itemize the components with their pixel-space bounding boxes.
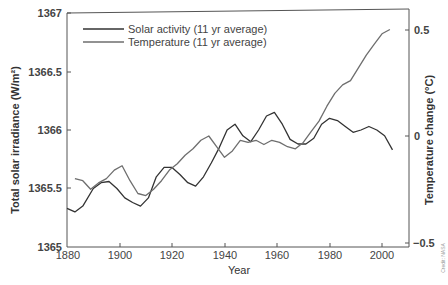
- x-tick-label: 1980: [318, 249, 342, 261]
- x-tick-label: 2000: [370, 249, 394, 261]
- x-tick-label: 1940: [213, 249, 237, 261]
- y-left-tick-labels: 1367 1366.5 1366 1365.5 1365: [28, 7, 62, 253]
- x-tick-label: 1920: [160, 249, 184, 261]
- y-right-tick-label: −0.5: [413, 237, 435, 249]
- x-tick-label: 1880: [56, 249, 80, 261]
- chart: 1367 1366.5 1366 1365.5 1365 0.5 0 −0.5 …: [0, 0, 448, 285]
- y-left-tick-label: 1366.5: [28, 66, 62, 78]
- y-right-tick-label: 0.5: [414, 24, 429, 36]
- temperature-line: [75, 30, 390, 196]
- y-right-axis-title: Temperature change (°C): [423, 75, 435, 205]
- y-right-tick-label: 0: [414, 130, 420, 142]
- x-tick-label: 1960: [265, 249, 289, 261]
- image-credit: Credit: NASA: [440, 242, 446, 272]
- y-left-ticks: [67, 13, 71, 188]
- x-tick-label: 1900: [108, 249, 132, 261]
- solar-activity-line: [67, 112, 393, 211]
- legend: Solar activity (11 yr average) Temperatu…: [83, 23, 267, 48]
- y-left-axis-title: Total solar irradiance (W/m²): [9, 66, 21, 214]
- y-left-tick-label: 1365.5: [28, 182, 62, 194]
- legend-label-solar: Solar activity (11 yr average): [128, 23, 267, 35]
- x-ticks: [120, 243, 382, 247]
- legend-label-temperature: Temperature (11 yr average): [128, 36, 267, 48]
- y-left-tick-label: 1366: [38, 124, 62, 136]
- x-tick-labels: 1880 1900 1920 1940 1960 1980 2000: [56, 249, 394, 261]
- x-axis-title: Year: [228, 264, 251, 276]
- y-right-ticks: [405, 30, 409, 243]
- y-left-tick-label: 1367: [38, 7, 62, 19]
